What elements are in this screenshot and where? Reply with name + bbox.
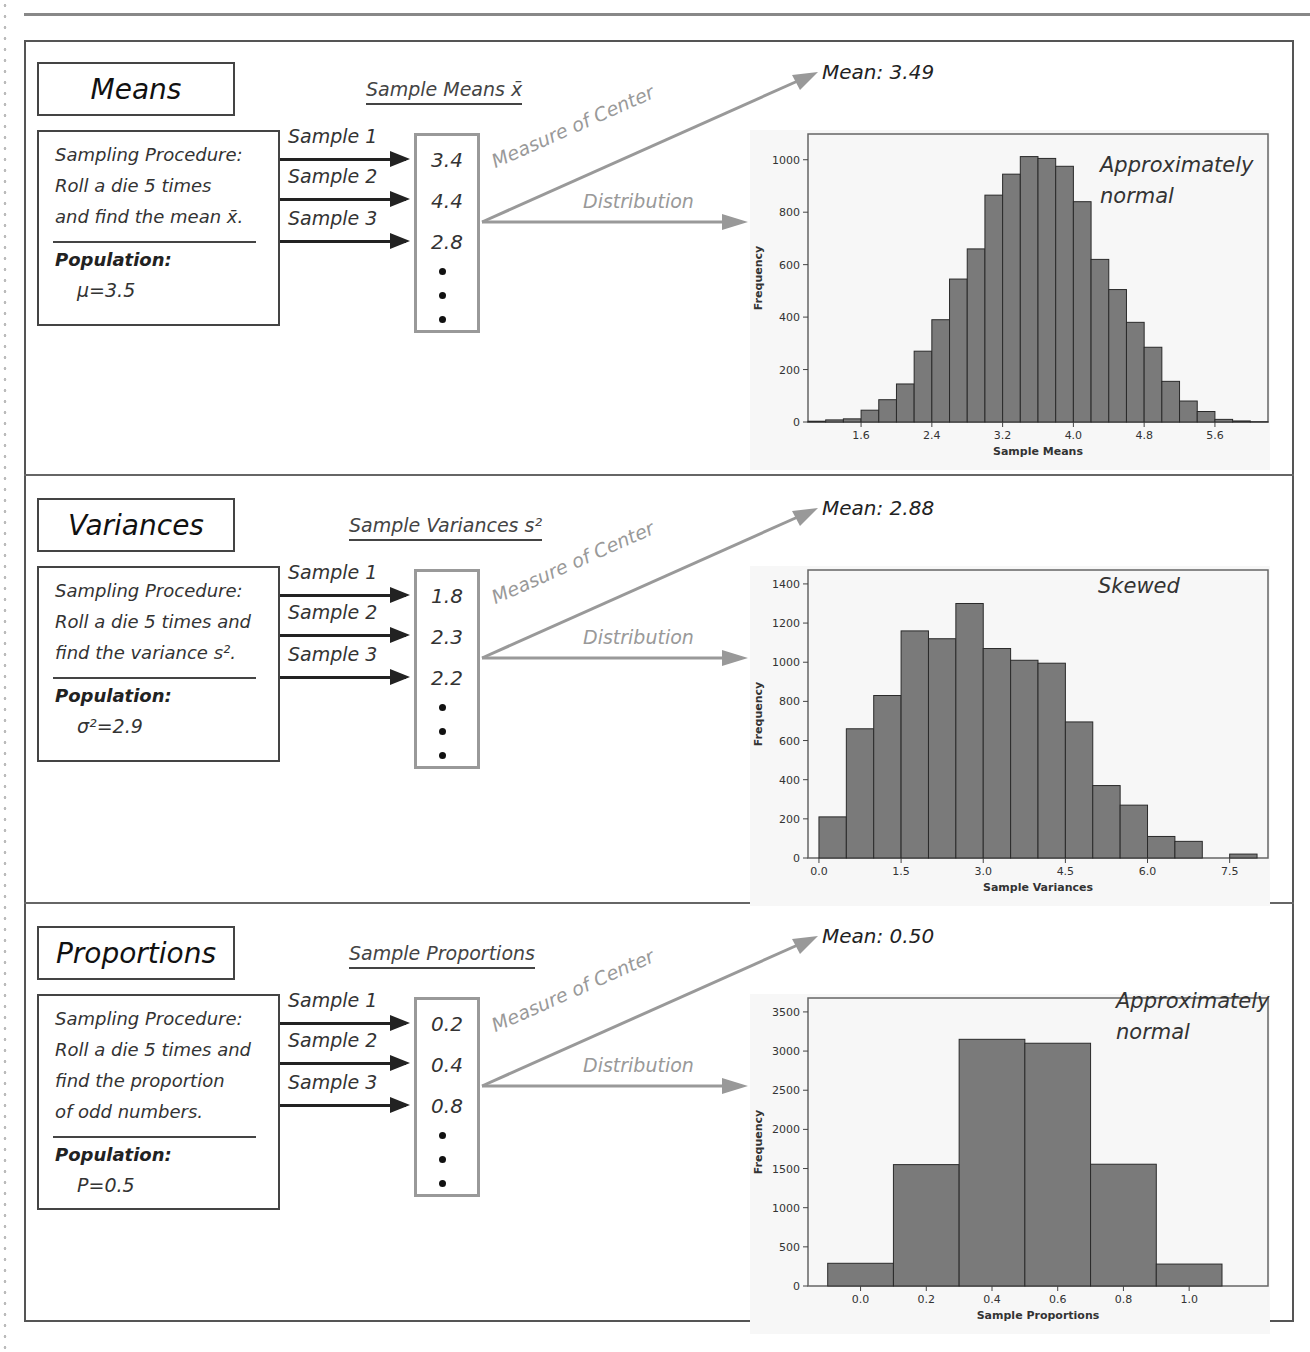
annotation-line: Approximately xyxy=(1116,986,1270,1017)
svg-text:2000: 2000 xyxy=(772,1123,800,1136)
svg-text:3000: 3000 xyxy=(772,1045,800,1058)
svg-text:1.0: 1.0 xyxy=(1180,1293,1198,1306)
svg-text:0.2: 0.2 xyxy=(918,1293,936,1306)
mean-value-label: Mean: 0.50 xyxy=(822,924,934,948)
distribution-label: Distribution xyxy=(583,1054,694,1076)
svg-text:0.0: 0.0 xyxy=(852,1293,870,1306)
svg-text:0: 0 xyxy=(793,1280,800,1293)
annotation-line: normal xyxy=(1116,1017,1270,1048)
svg-text:0.8: 0.8 xyxy=(1115,1293,1133,1306)
svg-text:2500: 2500 xyxy=(772,1084,800,1097)
svg-text:Sample Proportions: Sample Proportions xyxy=(977,1309,1100,1322)
svg-text:3500: 3500 xyxy=(772,1006,800,1019)
svg-text:1500: 1500 xyxy=(772,1163,800,1176)
svg-text:1000: 1000 xyxy=(772,1202,800,1215)
svg-text:0.6: 0.6 xyxy=(1049,1293,1067,1306)
panel-proportions: ProportionsSampling Procedure:Roll a die… xyxy=(0,0,1310,1352)
distribution-annotation: Approximatelynormal xyxy=(1116,986,1270,1048)
svg-text:0.4: 0.4 xyxy=(983,1293,1001,1306)
svg-text:Frequency: Frequency xyxy=(752,1110,765,1174)
svg-text:500: 500 xyxy=(779,1241,800,1254)
